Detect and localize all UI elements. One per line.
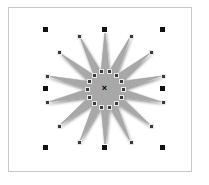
node-handle-inner-9[interactable] — [87, 95, 92, 100]
node-handle-outer-9[interactable] — [57, 124, 62, 129]
node-handle-outer-10[interactable] — [45, 100, 50, 105]
node-handle-inner-1[interactable] — [114, 73, 119, 78]
rotation-center-marker[interactable]: × — [100, 84, 109, 93]
node-handle-inner-2[interactable] — [119, 79, 124, 84]
node-handle-outer-8[interactable] — [77, 140, 82, 145]
node-handle-outer-11[interactable] — [45, 74, 50, 79]
node-handle-inner-10[interactable] — [85, 87, 90, 92]
node-handle-inner-5[interactable] — [114, 101, 119, 106]
node-handle-inner-7[interactable] — [99, 105, 104, 110]
canvas-root: × — [0, 0, 209, 185]
node-handle-inner-11[interactable] — [87, 79, 92, 84]
node-handle-inner-3[interactable] — [121, 87, 126, 92]
handle-top-center[interactable] — [101, 26, 108, 33]
node-handle-outer-12[interactable] — [57, 50, 62, 55]
node-handle-outer-1[interactable] — [129, 34, 134, 39]
artwork-layer: × — [0, 0, 209, 185]
handle-top-right[interactable] — [159, 26, 166, 33]
node-handle-inner-6[interactable] — [107, 105, 112, 110]
handle-middle-left[interactable] — [42, 85, 49, 92]
handle-bottom-left[interactable] — [42, 144, 49, 151]
node-handle-outer-13[interactable] — [77, 34, 82, 39]
node-handle-inner-13[interactable] — [99, 69, 104, 74]
node-handle-inner-4[interactable] — [119, 95, 124, 100]
handle-bottom-center[interactable] — [101, 144, 108, 151]
node-handle-outer-4[interactable] — [161, 100, 166, 105]
handle-top-left[interactable] — [42, 26, 49, 33]
node-handle-outer-3[interactable] — [161, 74, 166, 79]
node-handle-inner-0[interactable] — [107, 69, 112, 74]
handle-middle-right[interactable] — [159, 85, 166, 92]
node-handle-outer-2[interactable] — [149, 50, 154, 55]
handle-bottom-right[interactable] — [159, 144, 166, 151]
node-handle-outer-5[interactable] — [149, 124, 154, 129]
node-handle-inner-8[interactable] — [92, 101, 97, 106]
node-handle-outer-6[interactable] — [129, 140, 134, 145]
node-handle-inner-12[interactable] — [92, 73, 97, 78]
